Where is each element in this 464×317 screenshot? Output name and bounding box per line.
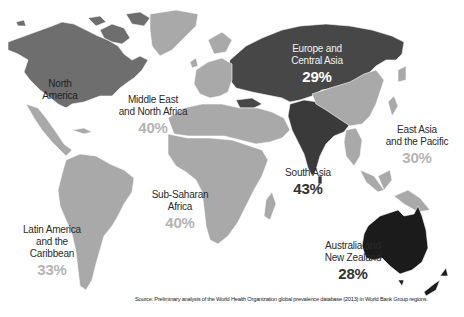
region-name-line1: Latin America <box>18 224 86 236</box>
region-percent: 40% <box>150 214 210 231</box>
region-percent: 21% <box>30 103 90 120</box>
region-name-line2: and the Pacific <box>382 136 452 148</box>
label-north-america: North America 21% <box>30 78 90 120</box>
region-name-line2: and North Africa <box>118 106 188 118</box>
region-name-line2: New Zealand <box>318 252 388 264</box>
region-percent: 33% <box>18 261 86 278</box>
region-name-line2: Africa <box>150 201 210 213</box>
region-percent: 28% <box>318 265 388 282</box>
region-percent: 43% <box>283 180 333 197</box>
region-name: North America <box>30 78 90 102</box>
region-greenland <box>150 10 198 56</box>
region-name-line1: Europe and <box>287 43 347 55</box>
region-western-europe <box>190 32 232 98</box>
region-percent: 30% <box>382 149 452 166</box>
source-note: Source: Preliminary analysis of the Worl… <box>135 295 428 302</box>
label-latin-america-caribbean: Latin America and the Caribbean 33% <box>18 224 86 278</box>
region-percent: 29% <box>287 68 347 85</box>
region-name-line1: Australia and <box>318 240 388 252</box>
label-east-asia-pacific: East Asia and the Pacific 30% <box>382 124 452 166</box>
region-name-line1: East Asia <box>382 124 452 136</box>
region-name-line2: and the Caribbean <box>18 236 86 260</box>
label-south-asia: South Asia 43% <box>283 167 333 197</box>
label-australia-new-zealand: Australia and New Zealand 28% <box>318 240 388 282</box>
region-name-line1: Sub-Saharan <box>150 189 210 201</box>
label-europe-central-asia: Europe and Central Asia 29% <box>287 43 347 85</box>
region-name-line1: Middle East <box>118 94 188 106</box>
label-middle-east-north-africa: Middle East and North Africa 40% <box>118 94 188 136</box>
region-name-line2: Central Asia <box>287 55 347 67</box>
label-sub-saharan-africa: Sub-Saharan Africa 40% <box>150 189 210 231</box>
region-name: South Asia <box>283 167 333 179</box>
region-percent: 40% <box>118 119 188 136</box>
